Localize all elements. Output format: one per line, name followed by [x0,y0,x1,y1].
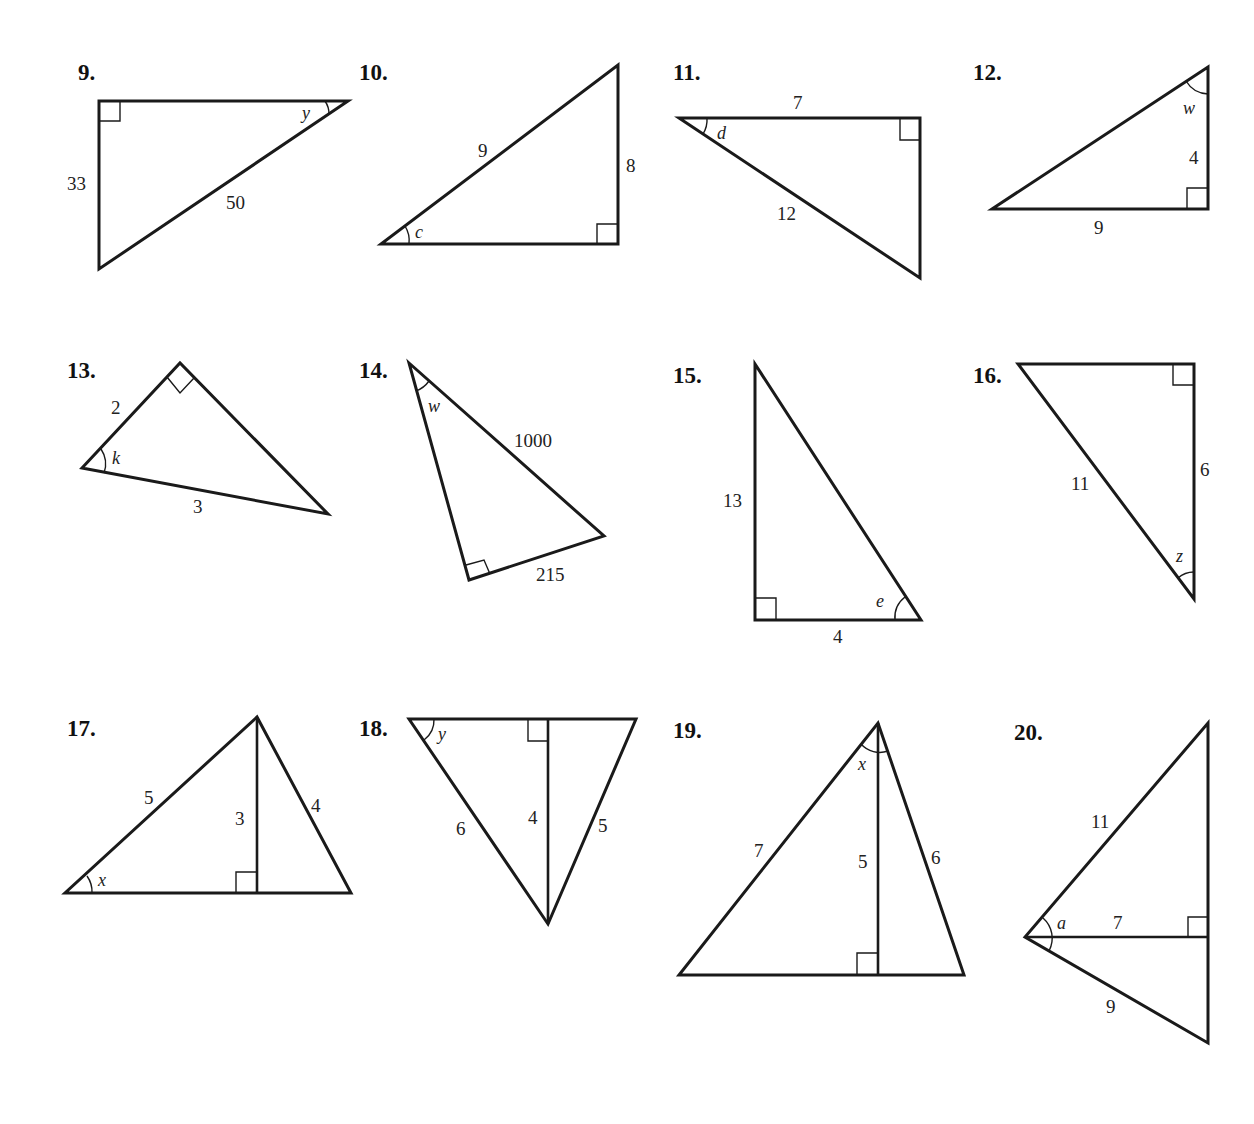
side-label: 3 [193,496,203,517]
angle-arc [101,449,106,473]
right-triangle [679,118,920,278]
angle-label: x [857,754,866,774]
right-angle-marker [466,560,490,574]
right-angle-marker [900,118,920,140]
side-label: 6 [931,847,941,868]
angle-label: w [1183,98,1195,118]
problem-number: 15. [673,363,702,388]
problem-number: 12. [973,60,1002,85]
side-label: 7 [1113,912,1123,933]
problem-number: 13. [67,358,96,383]
side-label: 33 [67,173,86,194]
side-label: 5 [144,787,154,808]
angle-arc [1043,918,1052,951]
right-triangle [1018,364,1194,599]
angle-arc [895,597,905,620]
right-angle-marker [755,598,776,620]
side-label: 1000 [514,430,552,451]
side-label: 4 [528,807,538,828]
problem-number: 14. [359,358,388,383]
side-label: 7 [754,840,764,861]
angle-label: e [876,591,884,611]
side-label: 9 [1106,996,1116,1017]
angle-arc [1186,81,1208,94]
problem-18: 18. y 6 4 5 [359,716,636,924]
right-angle-marker [99,101,120,121]
side-label: 6 [456,818,466,839]
side-label: 5 [598,815,608,836]
side-label: 9 [478,140,488,161]
side-label: 5 [858,851,868,872]
angle-arc [861,744,888,752]
right-angle-marker [1187,188,1208,209]
problem-number: 10. [359,60,388,85]
right-angle-marker [528,719,548,741]
angle-arc [424,719,434,740]
problem-number: 19. [673,718,702,743]
right-angle-marker [167,377,194,393]
side-label: 6 [1200,459,1210,480]
problem-number: 17. [67,716,96,741]
angle-arc [416,381,429,391]
side-label: 3 [235,808,245,829]
side-label: 4 [833,626,843,647]
composite-triangle [65,717,351,893]
angle-label: a [1057,913,1066,933]
side-label: 215 [536,564,565,585]
problem-20: 20. a 11 7 9 [1014,720,1208,1043]
problem-16: 16. z 11 6 [973,363,1210,599]
side-label: 12 [777,203,796,224]
right-triangle [99,101,348,269]
side-label: 11 [1071,473,1089,494]
side-label: 9 [1094,217,1104,238]
angle-label: y [300,103,310,123]
problem-11: 11. d 7 12 [673,60,920,278]
side-label: 2 [111,397,121,418]
problem-number: 20. [1014,720,1043,745]
side-label: 13 [723,490,742,511]
angle-label: z [1175,546,1183,566]
right-triangle [992,67,1208,209]
composite-triangle [679,723,964,975]
right-angle-marker [1188,917,1208,937]
angle-arc [1178,572,1194,578]
angle-label: c [415,222,423,242]
angle-arc [405,226,409,244]
right-angle-marker [1173,364,1194,385]
right-triangle [82,363,328,514]
side-label: 8 [626,155,636,176]
side-label: 4 [1189,147,1199,168]
angle-label: k [112,448,121,468]
problem-number: 18. [359,716,388,741]
angle-arc [87,876,92,893]
right-triangle [381,65,618,244]
problem-9: 9. y 33 50 [67,60,348,269]
problem-number: 16. [973,363,1002,388]
problem-number: 11. [673,60,700,85]
angle-arc [325,101,329,114]
problem-14: 14. w 1000 215 [359,358,604,585]
side-label: 11 [1091,811,1109,832]
right-angle-marker [236,872,257,893]
right-angle-marker [597,224,618,244]
angle-label: d [717,123,727,143]
problem-17: 17. x 5 3 4 [65,716,351,893]
angle-label: w [428,396,440,416]
problem-number: 9. [78,60,95,85]
side-label: 7 [793,92,803,113]
problem-19: 19. x 7 5 6 [673,718,964,975]
angle-arc [703,118,707,134]
composite-triangle [1025,723,1208,1043]
side-label: 50 [226,192,245,213]
side-label: 4 [311,795,321,816]
problem-13: 13. k 2 3 [67,358,328,517]
angle-label: y [436,724,446,744]
right-triangle [755,364,921,620]
angle-label: x [97,870,106,890]
problem-10: 10. c 9 8 [359,60,636,244]
right-angle-marker [857,953,878,975]
problem-15: 15. e 13 4 [673,363,921,647]
problem-12: 12. w 4 9 [973,60,1208,238]
